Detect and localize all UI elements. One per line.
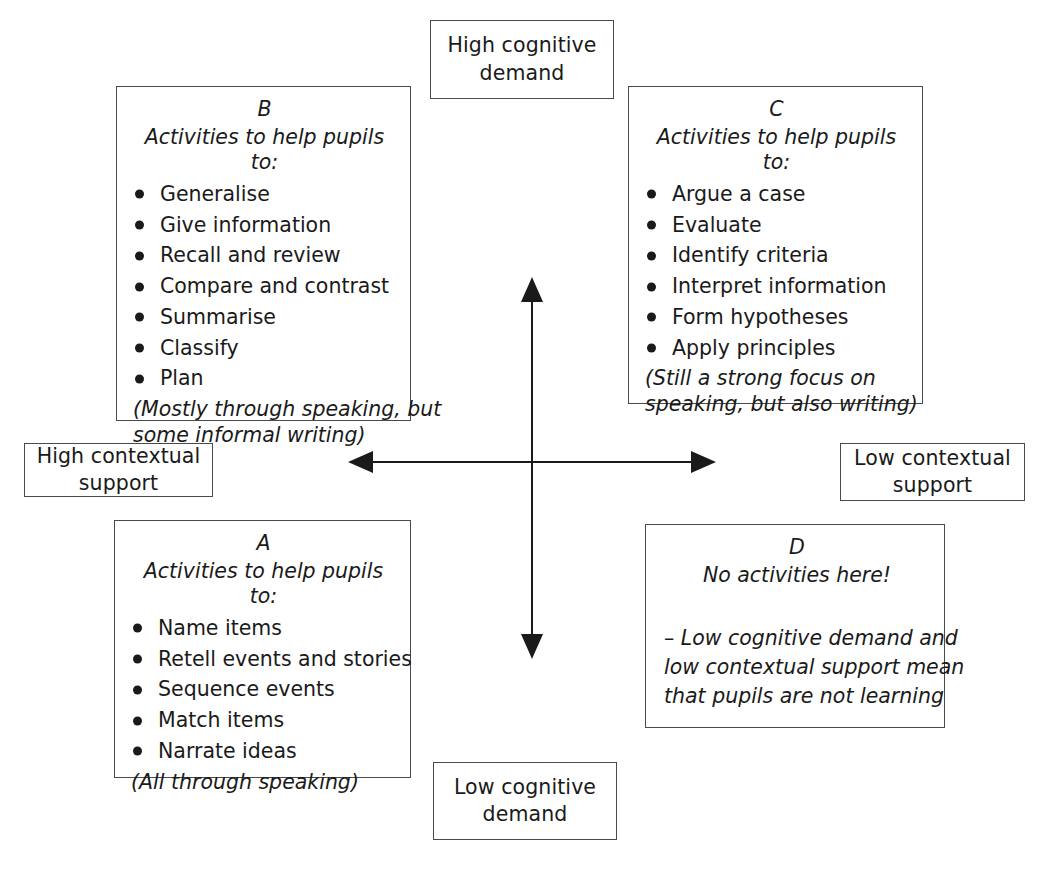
quadrant-note: (Mostly through speaking, but some infor… [133, 396, 396, 448]
quadrant-note-line1: (Mostly through speaking, but [133, 396, 396, 422]
list-item: Form hypotheses [645, 302, 908, 333]
quadrant-intro: Activities to help pupils to: [131, 559, 396, 610]
bullet-icon [647, 313, 656, 322]
axis-label-high-cognitive-demand: High cognitive demand [430, 20, 614, 99]
quadrant-intro: Activities to help pupils to: [133, 125, 396, 176]
list-item: Plan [133, 363, 396, 394]
list-item: Generalise [133, 179, 396, 210]
quadrant-note-line1: (Still a strong focus on [645, 365, 908, 391]
bullet-icon [135, 344, 144, 353]
quadrant-letter: B [133, 97, 396, 123]
bullet-icon [135, 374, 144, 383]
bullet-icon [135, 282, 144, 291]
quadrant-activity-list: Argue a case Evaluate Identify criteria … [645, 179, 908, 364]
bullet-icon [647, 221, 656, 230]
list-item-label: Identify criteria [672, 243, 829, 267]
bullet-icon [647, 282, 656, 291]
bullet-icon [133, 747, 142, 756]
list-item: Summarise [133, 302, 396, 333]
list-item: Identify criteria [645, 240, 908, 271]
bullet-icon [647, 251, 656, 260]
list-item-label: Apply principles [672, 336, 836, 360]
quadrant-box-d: D No activities here! – Low cognitive de… [645, 524, 945, 728]
list-item: Match items [131, 705, 396, 736]
axis-label-line1: Low contextual [854, 445, 1011, 472]
list-item: Narrate ideas [131, 736, 396, 767]
bullet-icon [135, 251, 144, 260]
list-item-label: Match items [158, 708, 284, 732]
bullet-icon [133, 716, 142, 725]
list-item-label: Compare and contrast [160, 274, 389, 298]
list-item-label: Summarise [160, 305, 276, 329]
contextual-support-axis [348, 451, 716, 473]
list-item-label: Give information [160, 213, 331, 237]
quadrant-box-a: A Activities to help pupils to: Name ite… [114, 520, 411, 778]
quadrant-note: (All through speaking) [131, 769, 396, 795]
list-item: Name items [131, 613, 396, 644]
spacer [664, 588, 930, 624]
list-item: Retell events and stories [131, 644, 396, 675]
quadrant-letter: A [131, 531, 396, 557]
quadrant-activity-list: Name items Retell events and stories Seq… [131, 613, 396, 767]
quadrant-box-b: B Activities to help pupils to: Generali… [116, 86, 411, 421]
cognitive-demand-axis [521, 277, 543, 659]
list-item-label: Evaluate [672, 213, 762, 237]
axis-label-line2: demand [447, 60, 596, 87]
list-item-label: Plan [160, 366, 204, 390]
bullet-icon [133, 655, 142, 664]
list-item-label: Recall and review [160, 243, 341, 267]
axis-label-low-cognitive-demand: Low cognitive demand [433, 762, 617, 840]
quadrant-activity-list: Generalise Give information Recall and r… [133, 179, 396, 394]
bullet-icon [135, 221, 144, 230]
quadrant-body: – Low cognitive demand and low contextua… [664, 624, 930, 711]
quadrant-diagram-canvas: High cognitive demand Low cognitive dema… [0, 0, 1054, 875]
quadrant-note-line1: (All through speaking) [131, 769, 396, 795]
list-item-label: Narrate ideas [158, 739, 297, 763]
list-item: Interpret information [645, 271, 908, 302]
list-item-label: Retell events and stories [158, 647, 412, 671]
list-item-label: Sequence events [158, 677, 335, 701]
list-item-label: Form hypotheses [672, 305, 848, 329]
axis-label-line2: support [37, 470, 201, 497]
bullet-icon [135, 313, 144, 322]
quadrant-note-line2: some informal writing) [133, 422, 396, 448]
list-item-label: Generalise [160, 182, 270, 206]
bullet-icon [133, 624, 142, 633]
quadrant-intro: Activities to help pupils to: [645, 125, 908, 176]
axis-label-high-contextual-support: High contextual support [24, 443, 213, 497]
bullet-icon [647, 190, 656, 199]
axis-label-low-contextual-support: Low contextual support [840, 443, 1025, 501]
list-item: Classify [133, 333, 396, 364]
quadrant-letter: C [645, 97, 908, 123]
bullet-icon [647, 344, 656, 353]
list-item: Evaluate [645, 210, 908, 241]
bullet-icon [135, 190, 144, 199]
quadrant-box-c: C Activities to help pupils to: Argue a … [628, 86, 923, 404]
list-item: Sequence events [131, 674, 396, 705]
quadrant-letter: D [664, 535, 930, 561]
list-item: Compare and contrast [133, 271, 396, 302]
list-item-label: Classify [160, 336, 239, 360]
list-item: Recall and review [133, 240, 396, 271]
quadrant-title: No activities here! [664, 563, 930, 589]
quadrant-body-line1: – Low cognitive demand and [664, 624, 930, 653]
axis-label-line1: High cognitive [447, 32, 596, 59]
list-item: Argue a case [645, 179, 908, 210]
quadrant-body-line3: that pupils are not learning [664, 682, 930, 711]
quadrant-note: (Still a strong focus on speaking, but a… [645, 365, 908, 417]
axis-label-line2: support [854, 472, 1011, 499]
list-item-label: Interpret information [672, 274, 887, 298]
axis-label-line1: Low cognitive [454, 774, 596, 801]
quadrant-body-line2: low contextual support mean [664, 653, 930, 682]
list-item-label: Name items [158, 616, 282, 640]
list-item-label: Argue a case [672, 182, 805, 206]
bullet-icon [133, 685, 142, 694]
axis-label-line2: demand [454, 801, 596, 828]
quadrant-note-line2: speaking, but also writing) [645, 391, 908, 417]
list-item: Give information [133, 210, 396, 241]
list-item: Apply principles [645, 333, 908, 364]
